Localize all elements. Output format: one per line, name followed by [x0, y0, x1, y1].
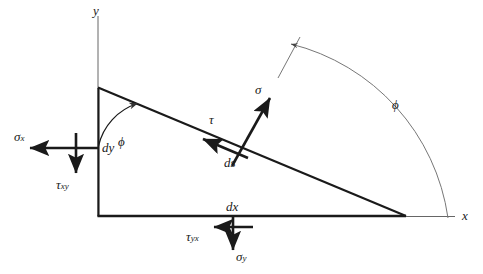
tau-xy-subscript: xy [61, 181, 69, 191]
axis-group [98, 16, 455, 217]
sigma-x-subscript: x [20, 133, 24, 143]
vertex-angle-label: ϕ [118, 135, 125, 148]
diagram-canvas [0, 0, 483, 274]
tau-inclined-symbol: τ [209, 112, 214, 127]
sigma-normal-label: σ [255, 83, 261, 96]
ds-label: ds [224, 156, 236, 169]
y-axis-label: y [93, 4, 99, 17]
sigma-y-label: σy [236, 250, 246, 263]
triangular-element [98, 88, 407, 217]
tau-yx-subscript: yx [191, 233, 199, 243]
tau-yx-label: τyx [186, 230, 199, 243]
bottom-face-stress-arrows [214, 217, 253, 250]
dx-label: dx [226, 200, 238, 213]
sigma-y-subscript: y [242, 253, 246, 263]
dy-label: dy [102, 141, 114, 154]
left-face-stress-arrows [30, 133, 98, 173]
phi-arc [291, 44, 448, 218]
inclined-face-stress-arrows [203, 37, 300, 166]
x-axis-label: x [462, 209, 468, 222]
tau-inclined-label: τ [209, 113, 214, 126]
phi-arc-group [291, 44, 448, 218]
element-inclined-face [98, 88, 406, 217]
stress-element-diagram: y x ϕ ϕ dy dx ds σx τxy σy τyx σ τ [0, 0, 483, 274]
sigma-x-label: σx [14, 130, 24, 143]
tau-xy-label: τxy [56, 178, 69, 191]
sigma-normal-symbol: σ [255, 82, 261, 97]
phi-arc-label: ϕ [392, 98, 399, 111]
sigma-normal-extension-line [278, 37, 300, 78]
